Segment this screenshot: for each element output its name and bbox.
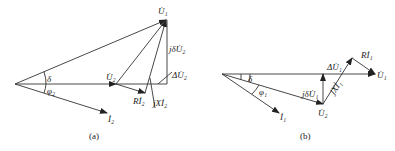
label-jdu1-b: jδU̇₁: [301, 89, 318, 99]
arc-phi2-a: [44, 84, 46, 93]
label-jdu2-a: jδU̇₂: [168, 44, 185, 54]
label-u2-b: U̇₂: [318, 108, 328, 118]
label-jxi2-a: jXİ₂: [152, 98, 167, 108]
label-du2-a: ΔU̇₂: [171, 70, 187, 80]
label-i2-a: İ₂: [107, 114, 114, 124]
leader-du2-a: [158, 72, 172, 84]
label-u1-b: U̇₁: [377, 70, 387, 80]
phasor-ri2-a: [116, 84, 145, 93]
label-u1-a: U̇₁: [158, 6, 168, 16]
label-ri2-a: Rİ₂: [132, 96, 145, 106]
label-delta-a: δ: [47, 74, 52, 84]
figure-b: U̇₁ U̇₂ İ₁ δ φ₁ Rİ₁ jXİ₁ jδU̇₁ ΔU̇₁ (b): [222, 50, 387, 141]
phasor-diagrams: U̇₁ U̇₂ İ₂ δ φ₂ Rİ₂ jXİ₂ jδU̇₂ ΔU̇₂ (a) …: [0, 0, 395, 151]
label-delta-b: δ: [248, 74, 253, 84]
phasor-u1-a: [15, 20, 166, 84]
caption-b: (b): [300, 131, 311, 141]
label-ri1-b: Rİ₁: [360, 50, 373, 60]
phasor-jxi2-a: [145, 20, 166, 93]
phasor-i2-a: [15, 84, 107, 113]
phasor-ri1-b: [352, 58, 375, 74]
figure-a: U̇₁ U̇₂ İ₂ δ φ₂ Rİ₂ jXİ₂ jδU̇₂ ΔU̇₂ (a): [15, 6, 187, 141]
arc-phi1-b: [252, 85, 259, 94]
label-du1-b: ΔU̇₁: [326, 62, 342, 72]
label-phi1-b: φ₁: [259, 87, 267, 97]
arc-delta-a: [44, 72, 46, 84]
label-u2-a: U̇₂: [106, 72, 116, 82]
voltage-drop-line-a: [116, 20, 166, 84]
label-phi2-a: φ₂: [47, 86, 55, 96]
caption-a: (a): [89, 131, 99, 141]
label-i1-b: İ₁: [279, 112, 286, 122]
